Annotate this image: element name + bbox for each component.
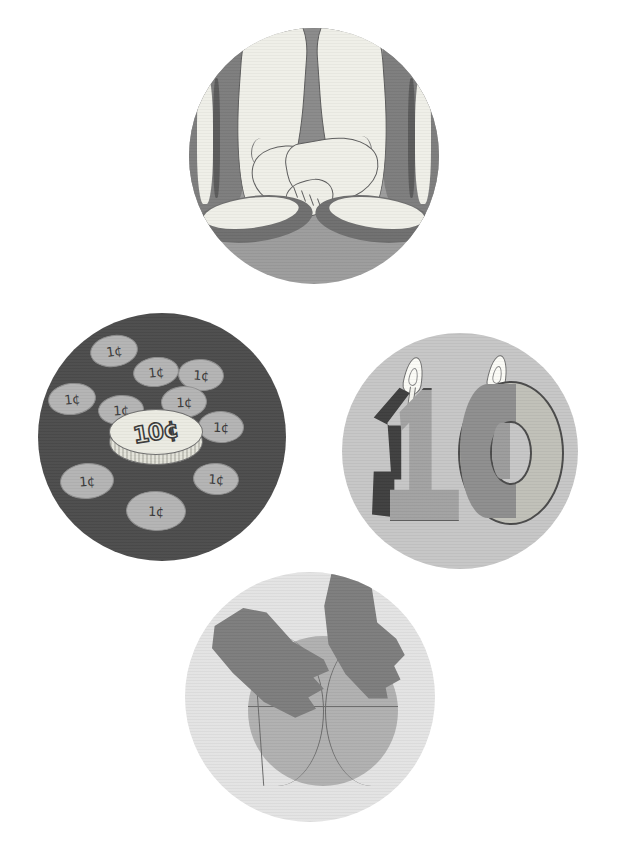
penny-coin: 1¢ — [46, 381, 97, 418]
pant-stripe-right-inner — [408, 78, 415, 198]
penny-label: 1¢ — [105, 342, 122, 359]
digit-zero-hole-shade — [492, 423, 510, 479]
penny-label: 1¢ — [193, 367, 210, 383]
panel-birthday-candles — [342, 333, 578, 569]
penny-label: 1¢ — [147, 364, 164, 381]
penny-coin: 1¢ — [125, 490, 186, 532]
penny-label: 1¢ — [176, 394, 192, 410]
penny-label: 1¢ — [208, 471, 225, 487]
penny-coin: 1¢ — [88, 332, 140, 370]
candle-digit-zero — [458, 381, 560, 521]
dime-face: 10¢ — [109, 409, 203, 455]
panel-basketball — [185, 572, 435, 822]
penny-label: 1¢ — [213, 419, 229, 435]
panel-coins: 1¢ 1¢ 1¢ 1¢ 1¢ 1¢ 1¢ 1¢ 1¢ 1¢ 10¢ — [38, 313, 286, 561]
penny-label: 1¢ — [63, 391, 80, 408]
pant-stripe-left-inner — [213, 78, 220, 198]
dime-label: 10¢ — [132, 416, 181, 449]
pant-stripe-left — [197, 72, 213, 204]
penny-coin: 1¢ — [59, 461, 115, 501]
penny-coin: 1¢ — [132, 355, 181, 390]
pant-stripe-right — [415, 72, 431, 204]
candle-digit-one — [372, 385, 458, 520]
penny-label: 1¢ — [79, 473, 96, 489]
penny-coin: 1¢ — [197, 410, 244, 444]
penny-coin: 1¢ — [192, 461, 240, 496]
penny-label: 1¢ — [148, 503, 164, 519]
dime-coin: 10¢ — [109, 409, 201, 463]
panel-crossed-feet — [189, 28, 439, 284]
